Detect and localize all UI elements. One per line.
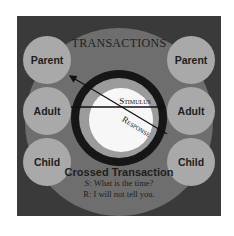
transactions-diagram: TRANSACTIONS Parent Adult Child Parent A…	[17, 16, 221, 216]
caption-title: Crossed Transaction	[17, 166, 221, 178]
caption: Crossed Transaction S: What is the time?…	[17, 166, 221, 200]
caption-line-stimulus: S: What is the time?	[17, 178, 221, 189]
response-label: Response	[120, 114, 153, 139]
stimulus-label: Stimulus	[119, 96, 151, 106]
caption-line-response: R: I will not tell you.	[17, 189, 221, 200]
